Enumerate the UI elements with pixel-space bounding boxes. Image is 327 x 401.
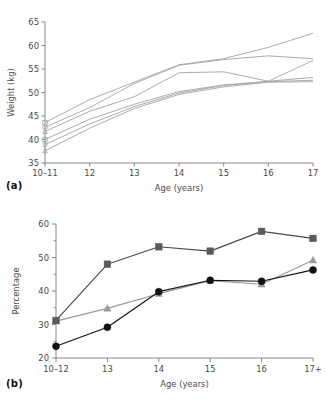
x-tick-label-b: 16 [256, 364, 267, 374]
data-point-square [258, 228, 265, 235]
figure-container: 3540455055606510–11121314151617Age (year… [0, 0, 327, 401]
data-point-square [207, 248, 214, 255]
data-point-circle [104, 324, 111, 331]
x-tick-label-b: 17+ [304, 364, 322, 374]
x-axis-title-b: Age (years) [160, 379, 208, 389]
x-tick-label-a: 10–11 [32, 168, 58, 178]
x-tick-label-b: 15 [205, 364, 216, 374]
y-tick-label-b: 50 [38, 253, 49, 263]
y-tick-label-a: 40 [28, 135, 39, 145]
data-point-circle [53, 343, 60, 350]
y-tick-label-b: 30 [38, 320, 49, 330]
panel-label-b: (b) [6, 378, 23, 389]
x-tick-label-b: 14 [153, 364, 164, 374]
series-group-square [53, 228, 317, 324]
y-axis-title-a: Weight (kg) [6, 68, 16, 117]
data-point-circle [258, 278, 265, 285]
data-point-circle [155, 288, 162, 295]
x-tick-label-a: 16 [263, 168, 274, 178]
series-group-circle [53, 266, 317, 349]
axis-lines-b [56, 224, 313, 358]
x-axis-title-a: Age (years) [155, 183, 203, 193]
data-point-square [104, 261, 111, 268]
line-chart-b: 203040506010–121314151617+Age (years)Per… [0, 196, 327, 401]
panel-label-a: (a) [6, 180, 23, 191]
y-tick-label-a: 45 [28, 111, 39, 121]
y-tick-label-a: 60 [28, 41, 39, 51]
series-group-triangle [52, 256, 316, 324]
series-line-circle [56, 270, 313, 346]
y-axis-title-b: Percentage [11, 267, 21, 314]
x-tick-label-a: 17 [308, 168, 319, 178]
x-tick-label-a: 14 [174, 168, 185, 178]
y-tick-label-b: 60 [38, 219, 49, 229]
x-tick-label-b: 10–12 [43, 364, 69, 374]
data-point-square [53, 317, 60, 324]
y-tick-label-a: 65 [28, 17, 39, 27]
series-line-triangle [56, 260, 313, 321]
series-line-square [56, 231, 313, 320]
data-point-circle [310, 266, 317, 273]
x-tick-label-b: 13 [102, 364, 113, 374]
series-line-a [45, 80, 313, 144]
x-tick-label-a: 15 [218, 168, 229, 178]
data-point-triangle [309, 256, 316, 263]
chart-panel-b: 203040506010–121314151617+Age (years)Per… [0, 196, 327, 401]
data-point-circle [207, 277, 214, 284]
y-tick-label-b: 20 [38, 353, 49, 363]
data-point-square [156, 243, 163, 250]
y-tick-label-b: 40 [38, 286, 49, 296]
line-chart-a: 3540455055606510–11121314151617Age (year… [0, 0, 327, 200]
chart-panel-a: 3540455055606510–11121314151617Age (year… [0, 0, 327, 200]
y-tick-label-a: 55 [28, 64, 39, 74]
series-group-a [43, 33, 313, 153]
y-tick-label-a: 35 [28, 158, 39, 168]
x-tick-label-a: 13 [129, 168, 140, 178]
data-point-square [310, 235, 317, 242]
x-tick-label-a: 12 [84, 168, 95, 178]
y-tick-label-a: 50 [28, 88, 39, 98]
